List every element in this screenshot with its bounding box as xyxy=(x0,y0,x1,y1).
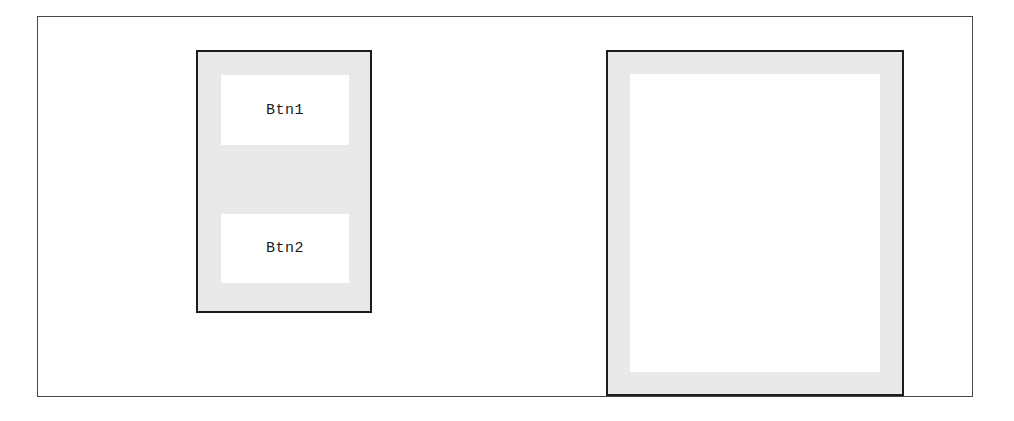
screen: Btn1 Btn2 xyxy=(0,0,1014,421)
content-area[interactable] xyxy=(630,74,880,372)
btn1-button[interactable]: Btn1 xyxy=(221,75,349,145)
btn2-button[interactable]: Btn2 xyxy=(221,214,349,283)
content-panel xyxy=(606,50,904,396)
outer-window-frame: Btn1 Btn2 xyxy=(37,16,973,397)
button-panel: Btn1 Btn2 xyxy=(196,50,372,313)
